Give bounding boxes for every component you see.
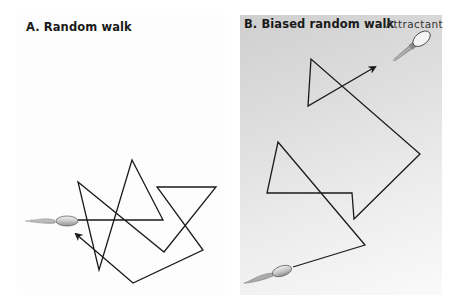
biased-walk-path: [267, 59, 420, 267]
diagram-canvas: [0, 0, 462, 304]
random-walk-path: [76, 160, 216, 283]
bacterium-icon: [242, 263, 293, 288]
bacterium-icon: [25, 216, 78, 226]
attractant-pipette-icon: [390, 28, 434, 66]
